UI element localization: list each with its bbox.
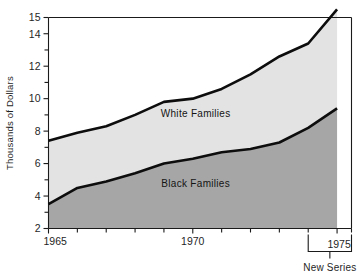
series-label-black-families: Black Families	[161, 178, 230, 189]
y-tick-label-6: 6	[35, 157, 41, 169]
y-axis-title: Thousands of Dollars	[4, 76, 15, 170]
series-label-white-families: White Families	[161, 108, 231, 119]
chart-canvas: 246810121415 1965 1970 1975 Thousands of…	[0, 0, 364, 272]
y-tick-label-2: 2	[35, 222, 41, 234]
new-series-label: New Series	[303, 262, 356, 272]
y-tick-label-14: 14	[29, 28, 41, 40]
x-tick-label-1965: 1965	[44, 235, 68, 247]
y-tick-label-12: 12	[29, 60, 41, 72]
income-area-chart: 246810121415 1965 1970 1975 Thousands of…	[0, 0, 364, 272]
y-tick-label-10: 10	[29, 92, 41, 104]
y-tick-label-15: 15	[29, 11, 41, 23]
y-tick-label-4: 4	[35, 190, 41, 202]
x-tick-label-1975: 1975	[327, 238, 351, 250]
y-tick-label-8: 8	[35, 125, 41, 137]
x-tick-label-1970: 1970	[181, 235, 205, 247]
